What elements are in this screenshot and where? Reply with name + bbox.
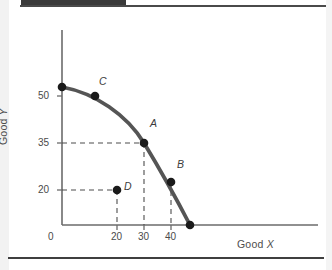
point-d	[113, 186, 122, 195]
point-x-intercept	[186, 221, 195, 230]
point-label-b: B	[177, 158, 184, 170]
x-axis-title-word: Good	[237, 238, 264, 250]
y-tick-label-50: 50	[38, 90, 49, 101]
point-label-d: D	[124, 180, 132, 192]
point-b	[167, 178, 176, 187]
y-axis-title-variable: Y	[0, 108, 9, 115]
x-tick-label-0: 0	[48, 231, 54, 242]
point-y-intercept	[58, 83, 67, 92]
point-c	[91, 92, 100, 101]
x-axis-title-variable: X	[267, 238, 274, 250]
y-axis-title: Good Y	[0, 108, 9, 145]
x-axis-title: Good X	[237, 238, 274, 250]
y-tick-label-20: 20	[38, 184, 49, 195]
x-tick-label-30: 30	[138, 231, 149, 242]
bottom-horizontal-rule	[8, 257, 324, 259]
x-tick-label-40: 40	[165, 231, 176, 242]
y-tick-label-35: 35	[38, 137, 49, 148]
y-axis-title-word: Good	[0, 119, 9, 146]
point-label-c: C	[99, 75, 107, 87]
point-a	[140, 139, 149, 148]
figure-page: 50 35 20 0 20 30 40 C A B D Good X Good …	[0, 0, 332, 270]
ppf-chart: 50 35 20 0 20 30 40 C A B D Good X Good …	[0, 10, 332, 255]
top-horizontal-rule	[20, 5, 326, 7]
ppf-plot-svg	[0, 10, 332, 255]
x-tick-label-20: 20	[111, 231, 122, 242]
point-label-a: A	[150, 117, 157, 129]
